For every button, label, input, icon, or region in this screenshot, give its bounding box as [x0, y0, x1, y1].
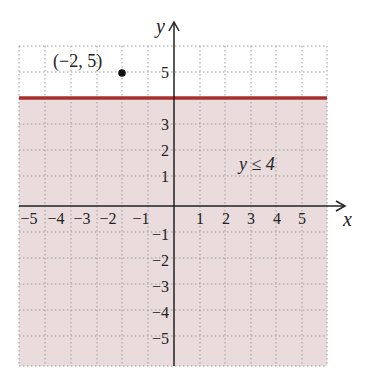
point-label: (−2, 5) — [53, 51, 102, 72]
svg-text:−4: −4 — [47, 210, 64, 227]
svg-text:−5: −5 — [20, 210, 37, 227]
svg-text:2: 2 — [222, 210, 230, 227]
svg-text:−1: −1 — [152, 226, 169, 243]
svg-text:3: 3 — [161, 116, 169, 133]
svg-text:−3: −3 — [73, 210, 90, 227]
svg-text:5: 5 — [161, 64, 169, 81]
svg-text:−2: −2 — [99, 210, 116, 227]
shaded-region — [19, 98, 327, 366]
svg-text:−4: −4 — [152, 304, 169, 321]
inequality-graph: y x (−2, 5) y ≤ 4 −5 −4 −3 −2 −1 1 2 3 4… — [0, 0, 375, 386]
svg-text:−1: −1 — [132, 210, 149, 227]
svg-text:3: 3 — [247, 210, 255, 227]
svg-text:4: 4 — [273, 210, 281, 227]
svg-text:1: 1 — [196, 210, 204, 227]
region-label: y ≤ 4 — [237, 154, 275, 174]
point-marker — [118, 69, 126, 77]
svg-text:2: 2 — [161, 142, 169, 159]
svg-text:1: 1 — [161, 168, 169, 185]
svg-text:5: 5 — [298, 210, 306, 227]
svg-text:−2: −2 — [152, 252, 169, 269]
svg-text:−5: −5 — [152, 330, 169, 347]
svg-text:−3: −3 — [152, 278, 169, 295]
x-axis-label: x — [342, 208, 352, 230]
y-axis-label: y — [154, 15, 165, 38]
